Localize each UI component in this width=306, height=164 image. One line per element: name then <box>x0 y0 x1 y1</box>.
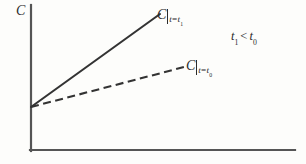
y-axis-label: C <box>16 4 25 18</box>
series-label-t1: Ct=t1 <box>157 8 183 24</box>
line-series-t0 <box>31 66 188 107</box>
inequality-right-sub: 0 <box>253 38 257 47</box>
inequality-relation-icon: < <box>240 29 247 43</box>
series-label-t1-symbol: C <box>157 7 166 22</box>
y-axis-label-text: C <box>16 3 25 18</box>
series-label-t1-cond-sub: 1 <box>180 21 183 27</box>
line-series-t1 <box>31 14 160 107</box>
series-label-t0: Ct=t0 <box>186 59 212 75</box>
series-label-t1-condition: t=t1 <box>169 14 183 24</box>
inequality-left-sub: 1 <box>234 38 238 47</box>
figure-container: C Ct=t1 Ct=t0 t1<t0 <box>0 0 306 164</box>
series-label-t0-cond-sub: 0 <box>209 72 212 78</box>
inequality-annotation: t1<t0 <box>231 30 257 45</box>
plot-area <box>0 0 306 164</box>
series-label-t0-symbol: C <box>186 58 195 73</box>
series-label-t0-condition: t=t0 <box>198 65 212 75</box>
